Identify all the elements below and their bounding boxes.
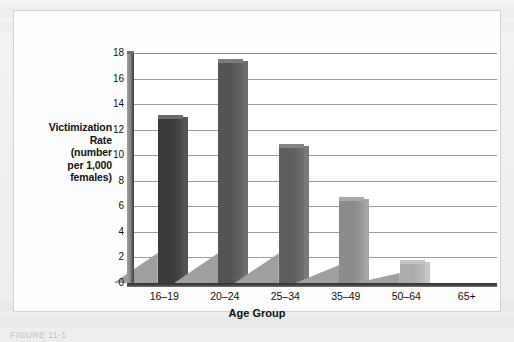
bar	[400, 264, 425, 283]
plot-background	[134, 53, 497, 283]
x-axis-line	[127, 283, 497, 287]
y-axis-tick-label: 6	[98, 200, 124, 211]
bar-side-face	[243, 61, 248, 283]
bar	[218, 63, 243, 283]
gridline	[134, 155, 497, 156]
x-axis-title: Age Group	[14, 307, 500, 319]
bar-front-face	[339, 201, 364, 283]
y-axis-tick-label: 16	[98, 73, 124, 84]
gridline	[134, 104, 497, 105]
y-axis-tick-label: 2	[98, 251, 124, 262]
bar	[339, 201, 364, 283]
y-axis-cap	[127, 51, 134, 54]
gridline	[134, 181, 497, 182]
gridline	[134, 206, 497, 207]
scan-artifact-band	[0, 318, 514, 327]
gridline	[134, 53, 497, 54]
gridline	[134, 130, 497, 131]
y-axis-tick-label: 8	[98, 175, 124, 186]
bar-front-face	[158, 119, 183, 283]
gridline	[134, 79, 497, 80]
y-axis-tick-label: 10	[98, 149, 124, 160]
bar-top-face	[279, 144, 304, 148]
plot-area	[134, 53, 497, 283]
scanned-page: Victimization Rate (number per 1,000 fem…	[0, 0, 514, 342]
bar-side-face	[304, 146, 309, 283]
bar	[158, 119, 183, 283]
bar-top-face	[400, 260, 425, 264]
bar-side-face	[364, 199, 369, 283]
bar-top-face	[218, 59, 243, 63]
bar-top-face	[158, 115, 183, 119]
bar-side-face	[425, 262, 430, 283]
y-axis-tick-label: 18	[98, 47, 124, 58]
y-axis-line	[127, 51, 134, 286]
y-axis-title-line: per 1,000	[20, 159, 112, 172]
figure-card: Victimization Rate (number per 1,000 fem…	[13, 10, 501, 312]
figure-caption: FIGURE 11-1	[10, 330, 66, 340]
y-axis-tick-label: 4	[98, 226, 124, 237]
gridline	[134, 232, 497, 233]
y-axis-tick-label: 14	[98, 98, 124, 109]
y-axis-title-line: Rate	[20, 134, 112, 147]
bar-front-face	[279, 148, 304, 283]
x-axis-tick-label: 65+	[427, 290, 507, 302]
y-axis-tick-label: 0	[98, 277, 124, 288]
bar	[279, 148, 304, 283]
bar-top-face	[339, 197, 364, 201]
bar-front-face	[400, 264, 425, 283]
bar-front-face	[218, 63, 243, 283]
gridline	[134, 257, 497, 258]
bar-side-face	[183, 117, 188, 283]
y-axis-tick-label: 12	[98, 124, 124, 135]
